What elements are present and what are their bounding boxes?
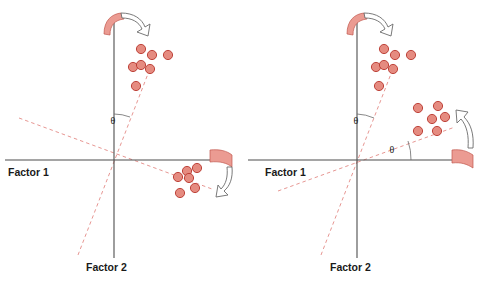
data-point: [413, 103, 422, 112]
data-point: [131, 81, 140, 90]
rotation-curl-arrow-icon: [364, 13, 393, 36]
right-cluster-upper-right: [371, 44, 415, 90]
data-point: [433, 101, 442, 110]
right-factor-1-label: Factor 1: [265, 166, 306, 178]
right-theta-label-vertical: θ: [354, 115, 359, 126]
left-cluster-upper-right: [128, 44, 172, 90]
right-theta-arc-vertical: [357, 114, 374, 118]
rotation-band-icon: [210, 150, 232, 167]
data-point: [184, 173, 193, 182]
data-point: [136, 44, 145, 53]
data-point: [427, 114, 436, 123]
data-point: [175, 188, 184, 197]
data-point: [163, 50, 172, 59]
rotation-band-icon: [452, 150, 473, 168]
right-rotation-arrow-right: [452, 110, 473, 168]
rotation-curl-arrow-icon: [456, 110, 473, 148]
data-point: [173, 172, 182, 181]
left-factor-1-label: Factor 1: [8, 166, 49, 178]
left-rotation-arrow-right: [210, 150, 232, 197]
data-point: [413, 126, 422, 135]
left-factor-2-label: Factor 2: [86, 261, 127, 273]
data-point: [440, 112, 449, 121]
data-point: [432, 126, 441, 135]
data-point: [374, 81, 383, 90]
data-point: [192, 163, 201, 172]
rotation-curl-arrow-icon: [121, 13, 150, 36]
data-point: [390, 50, 399, 59]
panel-right: θ θ: [248, 13, 473, 273]
factor-rotation-figure: θ: [0, 0, 487, 283]
data-point: [147, 50, 156, 59]
left-theta-arc: [114, 114, 130, 117]
data-point: [406, 50, 415, 59]
right-rotation-arrow-top: [347, 13, 393, 36]
data-point: [136, 60, 145, 69]
right-theta-label-horizontal: θ: [390, 144, 395, 155]
left-theta-label: θ: [111, 115, 116, 126]
data-point: [379, 60, 388, 69]
left-rotated-factor-1-axis: [19, 118, 212, 189]
data-point: [145, 64, 154, 73]
left-cluster-lower-right: [173, 163, 201, 197]
data-point: [190, 183, 199, 192]
left-rotation-arrow-top: [104, 13, 150, 36]
panel-left: θ: [5, 13, 232, 273]
right-factor-2-label: Factor 2: [330, 261, 371, 273]
data-point: [379, 44, 388, 53]
rotation-curl-arrow-icon: [216, 167, 232, 197]
data-point: [388, 64, 397, 73]
figure-canvas: θ: [0, 0, 487, 283]
